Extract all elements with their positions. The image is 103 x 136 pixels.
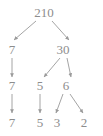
tree-node-r4c: 3: [54, 116, 61, 129]
tree-edge-arrow: [52, 21, 69, 40]
tree-edge-arrow: [56, 94, 63, 113]
factor-tree-diagram: 2107307567532: [0, 0, 103, 136]
tree-node-r3c: 6: [63, 79, 70, 92]
tree-node-r3b: 5: [37, 79, 44, 92]
tree-edge-arrow: [44, 58, 60, 77]
tree-node-r4d: 2: [81, 116, 88, 129]
tree-node-r2b: 30: [57, 43, 70, 56]
tree-node-r4a: 7: [9, 116, 16, 129]
tree-node-r3a: 7: [9, 79, 16, 92]
tree-edge-arrow: [14, 21, 36, 40]
tree-node-n210: 210: [34, 6, 54, 19]
tree-node-r4b: 5: [37, 116, 44, 129]
tree-edge-arrow: [70, 94, 83, 113]
tree-edge-arrow: [67, 58, 71, 77]
tree-node-r2a: 7: [9, 43, 16, 56]
